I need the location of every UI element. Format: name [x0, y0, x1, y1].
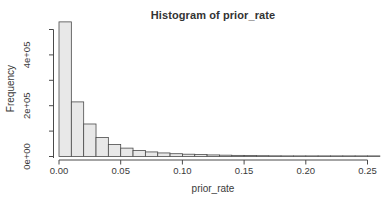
histogram-bar: [355, 156, 367, 157]
x-tick-label: 0.05: [111, 165, 130, 176]
histogram-bar: [96, 137, 108, 156]
y-tick-label: 0e+00: [21, 143, 32, 170]
histogram-bar: [182, 154, 194, 156]
histogram-bar: [269, 156, 281, 157]
y-tick-label: 2e+05: [21, 92, 32, 119]
x-tick-label: 0.20: [297, 165, 316, 176]
histogram-bar: [318, 156, 330, 157]
histogram-bar: [71, 102, 83, 157]
histogram-bar: [59, 22, 71, 157]
histogram-bar: [121, 148, 133, 156]
histogram-bar: [343, 156, 355, 157]
histogram-bar: [232, 155, 244, 156]
histogram-bar: [133, 150, 145, 156]
y-tick-label: 4e+05: [21, 42, 32, 69]
histogram-bar: [108, 145, 120, 157]
histogram-bar: [293, 156, 305, 157]
x-tick-label: 0.25: [358, 165, 377, 176]
x-tick-label: 0.10: [173, 165, 192, 176]
histogram-bar: [256, 156, 268, 157]
histogram-bar: [281, 156, 293, 157]
histogram-bar: [207, 155, 219, 157]
histogram-bar: [306, 156, 318, 157]
histogram-figure: Histogram of prior_rate Frequency prior_…: [0, 0, 392, 212]
histogram-bar: [244, 156, 256, 157]
plot-area: 0.000.050.100.150.200.250e+002e+054e+05: [0, 0, 392, 212]
histogram-bar: [158, 153, 170, 157]
histogram-bar: [84, 124, 96, 157]
histogram-bar: [170, 154, 182, 157]
histogram-bar: [330, 156, 342, 157]
histogram-bar: [219, 155, 231, 156]
x-tick-label: 0.00: [50, 165, 69, 176]
histogram-bar: [368, 156, 380, 157]
histogram-bar: [195, 155, 207, 157]
histogram-bar: [145, 152, 157, 157]
x-tick-label: 0.15: [235, 165, 254, 176]
